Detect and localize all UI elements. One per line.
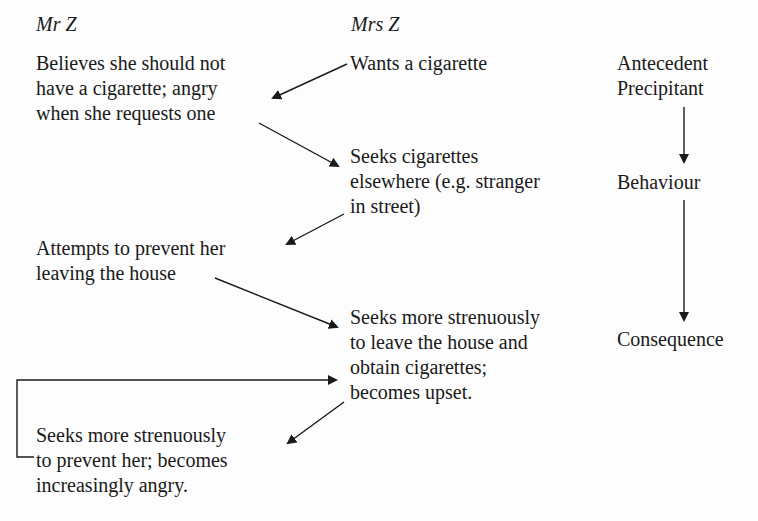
arrow-wants-to-believes (273, 64, 347, 98)
arrows-layer (0, 0, 758, 521)
arrow-upset-to-prevent-more (288, 402, 344, 443)
arrow-angry-to-seeks-elsewhere (259, 123, 338, 166)
arrow-feedback-loop (17, 380, 336, 457)
arrow-prevent-to-seeks-more (215, 278, 337, 327)
arrow-seeks-elsewhere-to-prevent (287, 214, 344, 244)
